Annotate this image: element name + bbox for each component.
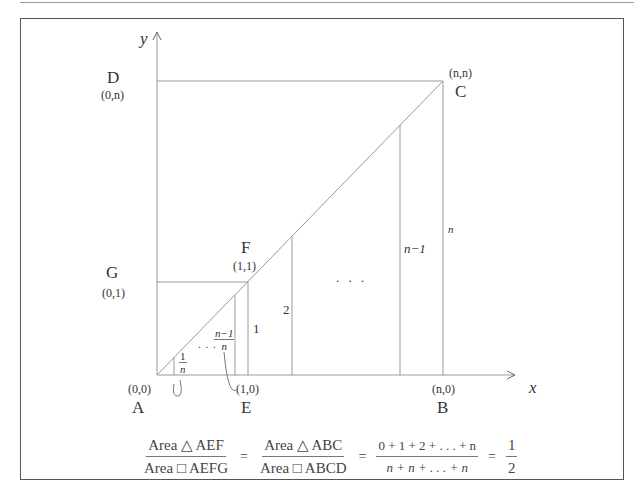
fraction-AEF-AEFG: Area △ AEF Area □ AEFG: [142, 436, 230, 477]
point-G-label: G: [106, 263, 118, 283]
height-label-n: n: [448, 223, 454, 235]
label-1-over-n: 1 n: [179, 350, 187, 375]
diagram-canvas: [0, 0, 642, 500]
height-label-1: 1: [253, 321, 260, 337]
point-E-coord: (1,0): [236, 382, 259, 397]
point-F-label: F: [241, 238, 250, 258]
height-label-2: 2: [283, 302, 290, 318]
x-axis-label: x: [529, 378, 537, 398]
label-n-1-over-n-num: n−1: [214, 327, 234, 340]
equals-sign-1: =: [240, 449, 248, 465]
point-G-coord: (0,1): [102, 286, 125, 301]
point-D-label: D: [107, 68, 119, 88]
point-E-label: E: [241, 398, 251, 418]
point-F-coord: (1,1): [233, 259, 256, 274]
fraction-4-denominator: 2: [506, 457, 518, 477]
fraction-3-denominator: n + n + . . . + n: [384, 457, 470, 476]
big-ellipsis: . . .: [336, 270, 367, 286]
fraction-2-denominator: Area □ ABCD: [258, 457, 349, 477]
point-C-label: C: [455, 82, 466, 102]
point-B-label: B: [437, 398, 448, 418]
equals-sign-3: =: [488, 449, 496, 465]
fraction-sum: 0 + 1 + 2 + . . . + n n + n + . . . + n: [376, 438, 478, 476]
point-B-coord: (n,0): [432, 382, 455, 397]
label-1-over-n-num: 1: [179, 350, 187, 363]
point-A-coord: (0,0): [128, 382, 151, 397]
point-D-coord: (0,n): [101, 88, 124, 103]
fraction-one-half: 1 2: [506, 437, 518, 477]
point-A-label: A: [132, 398, 144, 418]
point-C-coord: (n,n): [449, 66, 472, 81]
pointer-1-over-n: [173, 380, 181, 396]
fraction-ABC-ABCD: Area △ ABC Area □ ABCD: [258, 436, 349, 477]
area-ratio-formula: Area △ AEF Area □ AEFG = Area △ ABC Area…: [142, 436, 517, 477]
label-1-over-n-den: n: [180, 363, 186, 375]
height-label-n-1: n−1: [404, 241, 426, 257]
pointer-n-1-over-n: [224, 352, 236, 391]
equals-sign-2: =: [359, 449, 367, 465]
fraction-1-numerator: Area △ AEF: [146, 436, 226, 457]
fraction-1-denominator: Area □ AEFG: [142, 457, 230, 477]
label-n-1-over-n: n−1 n: [214, 327, 234, 352]
fraction-4-numerator: 1: [506, 437, 518, 457]
y-axis-label: y: [140, 29, 148, 49]
fraction-2-numerator: Area △ ABC: [262, 436, 344, 457]
fraction-3-numerator: 0 + 1 + 2 + . . . + n: [376, 438, 478, 457]
label-n-1-over-n-den: n: [221, 340, 227, 352]
